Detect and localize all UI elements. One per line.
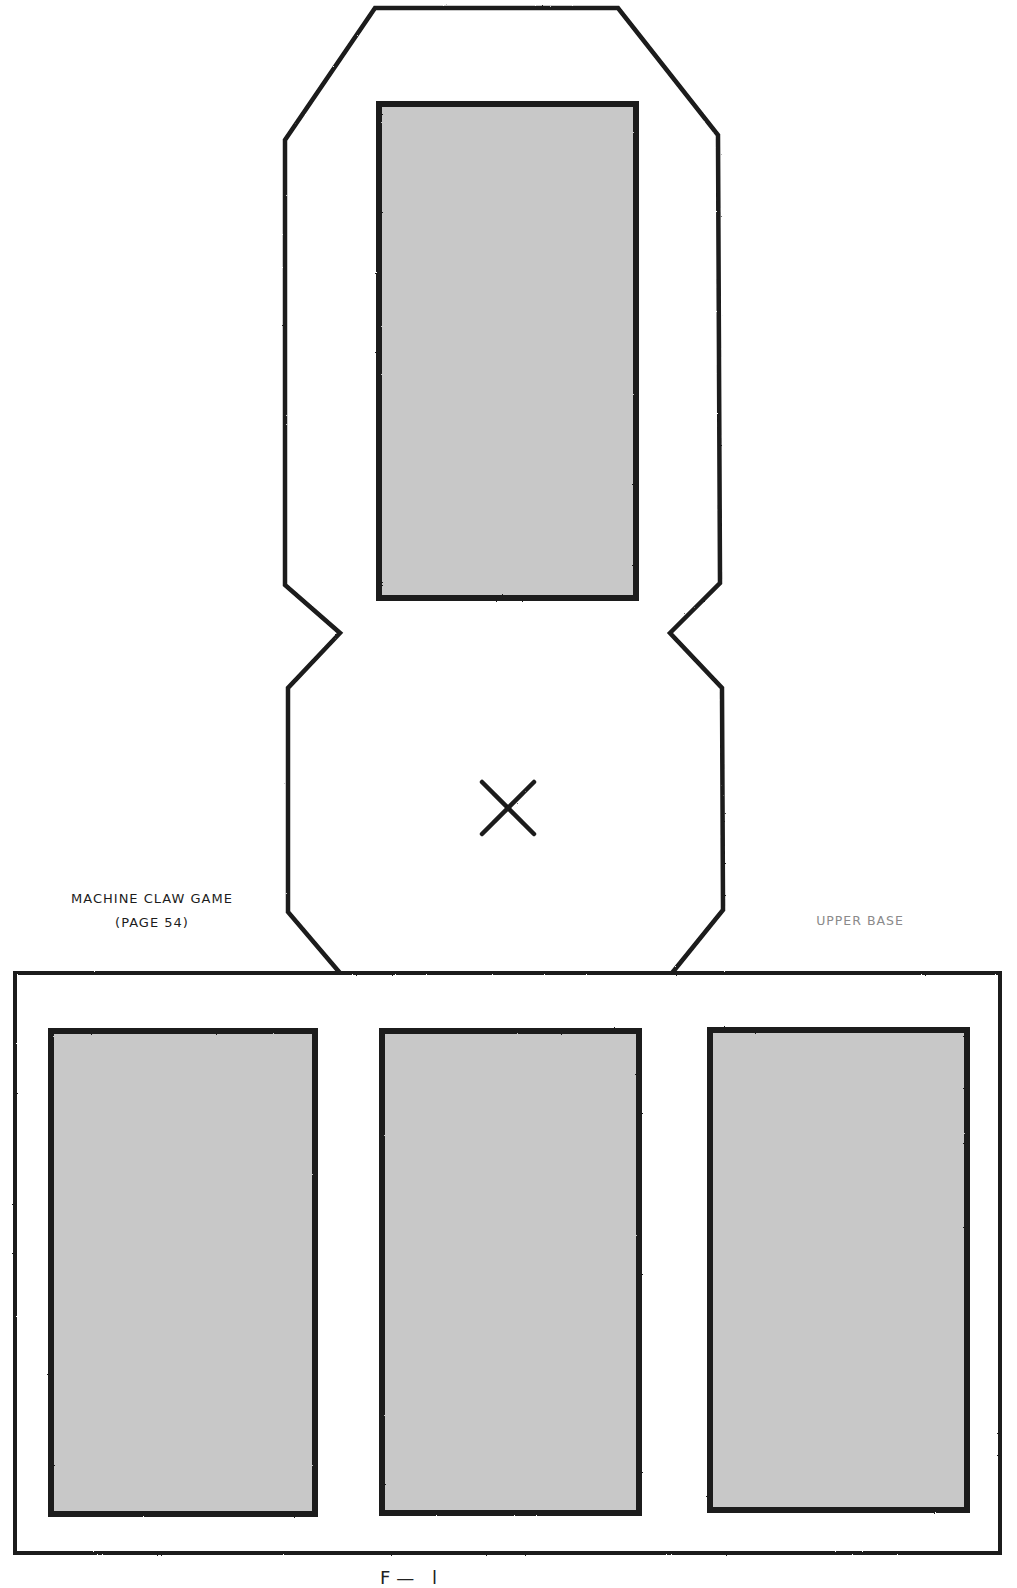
base-middle-window: [382, 1031, 639, 1513]
footer-partial-text: F— l: [380, 1567, 500, 1588]
base-right-window: [710, 1030, 967, 1510]
project-title-label: Machine Claw Game: [50, 889, 254, 908]
top-panel-window: [379, 104, 636, 598]
piece-name-label: Upper Base: [790, 913, 930, 928]
base-left-window: [51, 1031, 315, 1514]
project-page-reference: (page 54): [50, 915, 254, 930]
center-x-mark: [482, 782, 534, 834]
